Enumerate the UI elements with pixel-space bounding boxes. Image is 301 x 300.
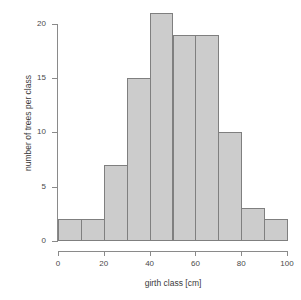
y-axis-tick-label: 0 [0, 237, 46, 245]
x-axis-tick [58, 251, 59, 256]
histogram-bar [218, 132, 242, 241]
x-axis-tick-label: 60 [180, 259, 210, 268]
y-axis-tick [52, 78, 57, 79]
x-axis-tick-label: 20 [89, 259, 119, 268]
plot-area [58, 13, 287, 241]
histogram-bar [127, 78, 151, 241]
y-axis-tick [52, 24, 57, 25]
x-axis-title: girth class [cm] [58, 278, 288, 288]
x-axis-tick-label: 40 [135, 259, 165, 268]
y-axis-title: number of trees per class [23, 43, 33, 203]
x-axis-tick [195, 251, 196, 256]
x-axis-tick-label: 100 [272, 259, 301, 268]
histogram-bar [104, 165, 128, 241]
y-axis-line [57, 24, 58, 242]
histogram-bar [58, 219, 82, 241]
y-axis-tick [52, 132, 57, 133]
x-axis-tick-label: 0 [43, 259, 73, 268]
x-axis-tick [104, 251, 105, 256]
x-axis-line [58, 251, 288, 252]
histogram-bar [173, 35, 197, 241]
x-axis-tick [287, 251, 288, 256]
histogram-bar [241, 208, 265, 241]
histogram-bar [264, 219, 288, 241]
histogram-bar [195, 35, 219, 241]
x-axis-tick [150, 251, 151, 256]
y-axis-tick [52, 241, 57, 242]
x-axis-tick-label: 80 [226, 259, 256, 268]
y-axis-tick-label: 20 [0, 20, 46, 28]
histogram-bar [150, 13, 174, 241]
histogram-figure: 05101520 020406080100 girth class [cm] n… [0, 0, 301, 300]
histogram-bar [81, 219, 105, 241]
x-axis-tick [241, 251, 242, 256]
y-axis-tick [52, 187, 57, 188]
